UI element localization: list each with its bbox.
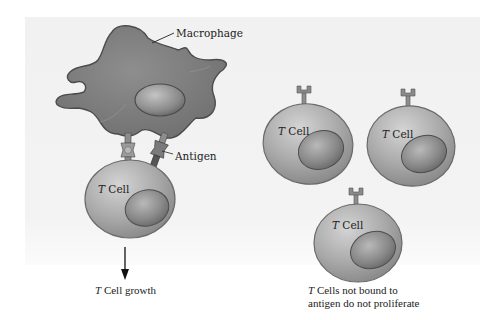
growth-arrow (121, 247, 129, 280)
macrophage-label: Macrophage (176, 27, 243, 39)
not-bound-caption-line2: antigen do not proliferate (308, 297, 420, 310)
macrophage-leader-line (152, 33, 174, 43)
t-cell-growth-caption: T Cell growth (95, 284, 156, 297)
t-cell-label-unbound-3: T Cell (332, 219, 363, 231)
t-cell-label-bound: T Cell (98, 183, 129, 195)
antigen-label: Antigen (175, 150, 217, 162)
t-cell-unbound-1 (257, 86, 360, 191)
macrophage-body (56, 26, 226, 138)
macrophage-cell (56, 26, 226, 138)
t-cell-label-unbound-1: T Cell (278, 125, 309, 137)
t-cell-unbound-3 (314, 188, 402, 282)
t-cell-unbound-2 (361, 89, 462, 193)
diagram-svg (0, 0, 499, 320)
not-bound-caption-line1: T Cells not bound to (308, 284, 420, 297)
t-cell-label-unbound-2: T Cell (382, 128, 413, 140)
macrophage-nucleus (135, 84, 185, 116)
diagram-stage: Macrophage Antigen T Cell T Cell T Cell … (0, 0, 499, 320)
not-bound-caption: T Cells not bound to antigen do not prol… (308, 284, 420, 310)
t-cell-bound (85, 160, 175, 238)
